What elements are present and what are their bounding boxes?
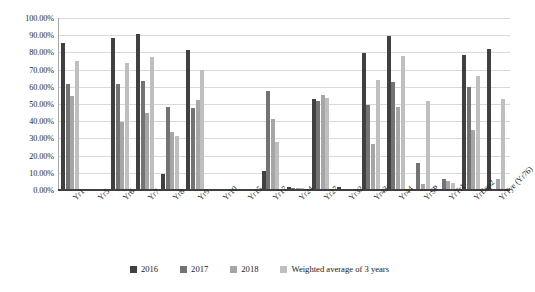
bar-group: [435, 18, 460, 190]
bar-group: [234, 18, 259, 190]
bar: [391, 82, 395, 190]
bar: [275, 142, 279, 191]
legend-label: 2018: [241, 264, 258, 274]
legend-label: 2016: [141, 264, 158, 274]
bar: [141, 81, 145, 190]
plot-area: [58, 18, 510, 190]
x-axis-tick: Yr17: [259, 191, 284, 251]
bar: [175, 136, 179, 190]
x-axis-tick: YrExp2: [460, 191, 485, 251]
bar: [401, 56, 405, 190]
bar-group: [485, 18, 510, 190]
bar-group: [59, 18, 84, 190]
legend-label: 2017: [191, 264, 208, 274]
bar-group: [360, 18, 385, 190]
x-axis-tick: Yr9: [184, 191, 209, 251]
bar: [262, 171, 266, 190]
legend-item[interactable]: 2017: [180, 264, 208, 274]
bar-group: [109, 18, 134, 190]
bar-group: [335, 18, 360, 190]
bar: [376, 80, 380, 190]
y-axis-tick-label: 20.00%: [0, 151, 54, 160]
bar: [467, 87, 471, 190]
legend-item[interactable]: 2016: [130, 264, 158, 274]
bar: [61, 43, 65, 190]
x-axis-tick: Yr32: [334, 191, 359, 251]
bar: [416, 163, 420, 190]
legend-swatch-icon: [280, 266, 287, 273]
bar: [136, 34, 140, 190]
legend-swatch-icon: [230, 266, 237, 273]
bar: [161, 174, 165, 190]
bar-group: [310, 18, 335, 190]
legend-item[interactable]: 2018: [230, 264, 258, 274]
bar: [271, 119, 275, 190]
bar: [116, 84, 120, 190]
bar: [316, 101, 320, 190]
x-axis-tick: YrTr1: [435, 191, 460, 251]
y-axis-tick-label: 80.00%: [0, 48, 54, 57]
bar: [396, 107, 400, 190]
bar-group: [410, 18, 435, 190]
x-axis-tick: Yr6: [108, 191, 133, 251]
x-axis-tick: Yr7: [133, 191, 158, 251]
bar: [426, 101, 430, 190]
bar-group: [385, 18, 410, 190]
x-axis-tick: Yr8: [158, 191, 183, 251]
bar: [321, 95, 325, 190]
bar: [145, 113, 149, 190]
bar: [476, 76, 480, 190]
x-axis-tick: Yr1: [58, 191, 83, 251]
x-axis-tick: YrTye (Yr76): [485, 191, 510, 251]
bar: [166, 107, 170, 190]
bar: [125, 63, 129, 190]
legend-swatch-icon: [130, 266, 137, 273]
x-axis-tick: Yr15: [234, 191, 259, 251]
y-axis-tick-label: 90.00%: [0, 31, 54, 40]
bar: [196, 100, 200, 190]
bar: [170, 132, 174, 190]
legend-swatch-icon: [180, 266, 187, 273]
bar-group: [84, 18, 109, 190]
bar: [186, 50, 190, 190]
legend-label: Weighted average of 3 years: [291, 264, 389, 274]
x-axis-tick: Yr44: [384, 191, 409, 251]
bar-group: [184, 18, 209, 190]
y-axis-tick-label: 50.00%: [0, 100, 54, 109]
bar-group: [460, 18, 485, 190]
bar: [266, 91, 270, 190]
x-axis-tick: Yr5: [83, 191, 108, 251]
bar: [191, 108, 195, 190]
x-axis-tick: Yr27: [309, 191, 334, 251]
x-axis-tick: YrSP: [410, 191, 435, 251]
y-axis-tick-label: 0.00%: [0, 186, 54, 195]
bar: [150, 57, 154, 190]
bar-group: [260, 18, 285, 190]
y-axis-tick-label: 40.00%: [0, 117, 54, 126]
chart-legend: 201620172018Weighted average of 3 years: [0, 264, 519, 274]
bar: [75, 61, 79, 190]
bar: [362, 53, 366, 190]
bar: [66, 84, 70, 190]
bar: [387, 36, 391, 190]
bar-group: [134, 18, 159, 190]
bar: [501, 99, 505, 190]
legend-item[interactable]: Weighted average of 3 years: [280, 264, 389, 274]
y-axis-tick-label: 100.00%: [0, 14, 54, 23]
y-axis-tick-label: 30.00%: [0, 134, 54, 143]
y-axis-tick-label: 60.00%: [0, 82, 54, 91]
bar: [111, 38, 115, 190]
x-axis-labels: Yr1Yr5Yr6Yr7Yr8Yr9Yr10Yr15Yr17Yr24Yr27Yr…: [58, 191, 510, 251]
bar-groups: [59, 18, 510, 190]
x-axis-tick: Yr10: [209, 191, 234, 251]
y-axis-tick-label: 70.00%: [0, 65, 54, 74]
bar: [325, 98, 329, 190]
bar: [471, 130, 475, 190]
bar: [312, 99, 316, 190]
bar: [366, 105, 370, 190]
bar-group: [209, 18, 234, 190]
y-axis-labels: 100.00%90.00%80.00%70.00%60.00%50.00%40.…: [0, 18, 54, 190]
x-axis-tick: Yr43: [359, 191, 384, 251]
bar: [487, 49, 491, 190]
